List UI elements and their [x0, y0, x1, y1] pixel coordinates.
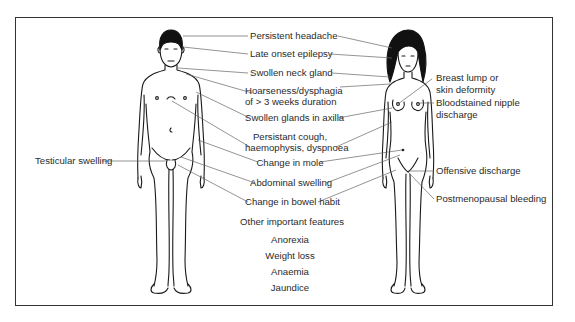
label-postmenopausal-bleeding: Postmenopausal bleeding — [436, 193, 546, 205]
label-late-onset-epilepsy: Late onset epilepsy — [250, 48, 330, 60]
other-features-heading: Other important features — [240, 216, 340, 228]
label-testicular-swelling: Testicular swelling — [35, 155, 112, 167]
label-abdominal-swelling: Abdominal swelling — [250, 177, 330, 189]
female-hair-icon — [387, 30, 426, 82]
other-feature-item: Anorexia — [250, 234, 330, 246]
label-change-in-bowel-habit: Change in bowel habit — [245, 196, 335, 208]
other-feature-item: Jaundice — [250, 282, 330, 294]
label-hoarseness-line2: of > 3 weeks duration — [245, 96, 335, 108]
label-swollen-neck-gland: Swollen neck gland — [250, 67, 330, 79]
other-feature-item: Anaemia — [250, 266, 330, 278]
female-figure — [382, 30, 434, 293]
other-feature-item: Weight loss — [250, 250, 330, 262]
label-cough-line2: haemophysis, dyspnoea — [245, 142, 335, 154]
label-persistent-headache: Persistent headache — [250, 30, 330, 42]
male-hair-icon — [160, 30, 183, 50]
label-swollen-glands-axilla: Swollen glands in axilla — [245, 112, 335, 124]
label-nipple-line2: discharge — [436, 109, 478, 121]
label-nipple-line1: Bloodstained nipple — [436, 97, 520, 109]
label-hoarseness-line1: Hoarseness/dysphagia — [245, 85, 335, 97]
label-breast-line2: skin deformity — [436, 84, 495, 96]
label-offensive-discharge: Offensive discharge — [436, 165, 521, 177]
female-head-icon — [398, 52, 418, 72]
male-head-icon — [160, 48, 182, 67]
label-cough-line1: Persistant cough, — [245, 131, 335, 143]
label-breast-line1: Breast lump or — [436, 72, 498, 84]
label-change-in-mole: Change in mole — [250, 157, 330, 169]
